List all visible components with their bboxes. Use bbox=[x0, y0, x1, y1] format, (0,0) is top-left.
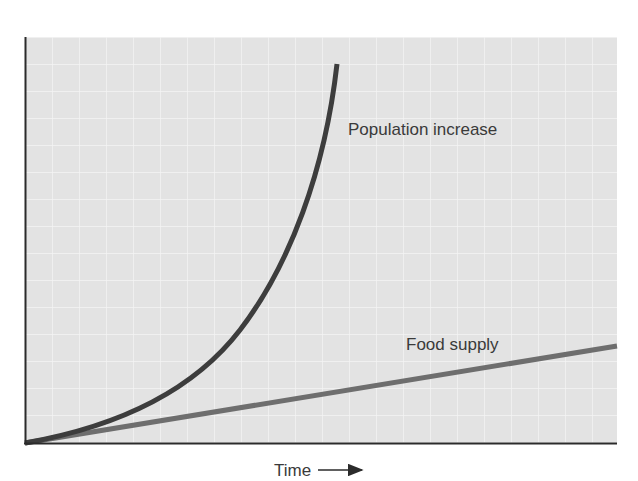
chart: Population increase Food supply Time bbox=[0, 0, 638, 481]
plot-area bbox=[25, 37, 617, 443]
x-axis-label: Time bbox=[274, 461, 311, 480]
food-supply-label: Food supply bbox=[406, 335, 499, 354]
population-label: Population increase bbox=[348, 120, 497, 139]
